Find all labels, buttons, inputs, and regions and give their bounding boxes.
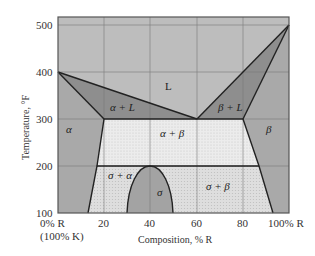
x-tick-0-sub: (100% K) [40, 230, 84, 243]
label-beta-plus-L: β + L [217, 101, 243, 113]
x-tick-100: 100% R [268, 217, 304, 229]
x-tick-0: 0% R [40, 217, 65, 229]
label-alpha: α [66, 123, 72, 135]
label-sigma: σ [157, 186, 163, 198]
label-alpha-plus-L: α + L [110, 101, 135, 113]
x-tick-80: 80 [237, 217, 249, 229]
label-alpha-plus-beta: α + β [160, 127, 185, 139]
y-tick-300: 300 [36, 113, 53, 125]
y-tick-200: 200 [36, 160, 53, 172]
y-tick-400: 400 [36, 66, 53, 78]
x-tick-60: 60 [191, 217, 203, 229]
label-sigma-plus-alpha: σ + α [108, 169, 132, 181]
label-sigma-plus-beta: σ + β [206, 180, 230, 192]
x-axis-label: Composition, % R [138, 234, 213, 245]
x-tick-40: 40 [144, 217, 156, 229]
label-L: L [165, 80, 172, 92]
y-axis-label: Temperature, °F [20, 95, 31, 160]
phase-diagram-chart: L α + L β + L α α + β β σ + α σ σ + β 50… [0, 0, 315, 256]
label-beta: β [265, 123, 272, 135]
x-tick-20: 20 [98, 217, 110, 229]
y-tick-500: 500 [36, 19, 53, 31]
